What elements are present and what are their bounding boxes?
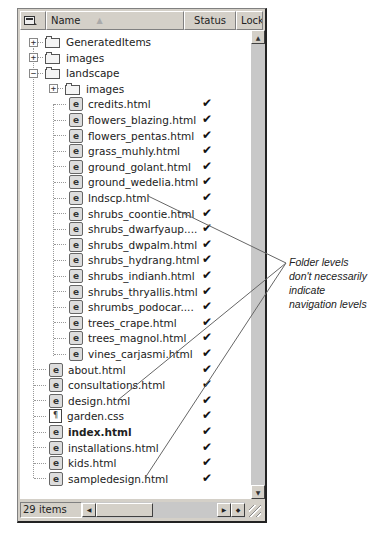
site-view-icon[interactable] — [20, 11, 46, 30]
column-locked[interactable]: Locke — [236, 11, 263, 30]
tree-connector — [54, 244, 66, 245]
status-bar: 29 items ◀ ▶ ◆ — [20, 500, 263, 519]
file-name: shrubs_thryallis.html — [88, 286, 198, 298]
tree-connector — [34, 400, 46, 401]
checked-out-check-icon: ✔ — [202, 315, 212, 329]
tree-connector — [54, 120, 66, 121]
column-name-label: Name — [51, 15, 81, 26]
html-file-icon: e — [69, 191, 83, 205]
tree-connector — [54, 229, 66, 230]
tree-connector — [34, 432, 46, 433]
checked-out-check-icon: ✔ — [202, 268, 212, 282]
html-file-icon: e — [49, 394, 63, 408]
checked-out-check-icon: ✔ — [202, 128, 212, 142]
tree-connector — [54, 291, 66, 292]
expand-panel-button[interactable]: ◆ — [231, 503, 245, 517]
expand-icon[interactable]: + — [29, 38, 38, 47]
checked-out-check-icon: ✔ — [202, 190, 212, 204]
expand-collapse-icon: ◆ — [236, 506, 241, 513]
sort-ascending-icon: ▲ — [97, 16, 103, 25]
html-file-icon: e — [69, 97, 83, 111]
folder-icon — [45, 52, 61, 64]
file-name: shrubs_indianh.html — [88, 270, 195, 282]
expand-icon[interactable]: + — [29, 53, 38, 62]
tree-connector — [54, 322, 66, 323]
tree-connector — [34, 369, 46, 370]
html-file-icon: e — [49, 363, 63, 377]
file-name: landscape — [66, 67, 119, 79]
html-file-icon: e — [69, 253, 83, 267]
scroll-up-button[interactable]: ▲ — [251, 30, 265, 44]
scroll-right-button[interactable]: ▶ — [217, 503, 231, 517]
column-name[interactable]: Name ▲ — [46, 11, 184, 30]
expand-icon[interactable]: + — [49, 84, 58, 93]
tree-connector — [54, 151, 66, 152]
horizontal-scroll-thumb[interactable] — [96, 503, 153, 517]
vertical-scrollbar[interactable]: ▲ ▼ — [251, 30, 265, 499]
item-count: 29 items — [20, 502, 82, 518]
tree-connector — [34, 463, 46, 464]
file-name: vines_carjasmi.html — [88, 348, 193, 360]
tree-connector — [54, 182, 66, 183]
html-file-icon: e — [69, 207, 83, 221]
checked-out-check-icon: ✔ — [202, 408, 212, 422]
checked-out-check-icon: ✔ — [202, 424, 212, 438]
tree-connector — [38, 73, 43, 74]
horizontal-scrollbar[interactable]: ◀ ▶ ◆ — [82, 502, 245, 518]
tree-connector — [34, 416, 46, 417]
file-tree: +GeneratedItems+images−landscape+imagese… — [20, 30, 251, 499]
folder-icon — [45, 67, 61, 79]
html-file-icon: e — [49, 456, 63, 470]
html-file-icon: e — [69, 285, 83, 299]
file-name: ground_wedelia.html — [88, 176, 198, 188]
html-file-icon: e — [49, 472, 63, 486]
html-file-icon: e — [69, 300, 83, 314]
column-status[interactable]: Status — [184, 11, 236, 30]
file-name: kids.html — [68, 457, 116, 469]
tree-connector — [54, 104, 66, 105]
tree-connector — [38, 42, 43, 43]
checked-out-check-icon: ✔ — [202, 237, 212, 251]
html-file-icon: e — [69, 144, 83, 158]
resize-grip[interactable] — [249, 505, 261, 517]
checked-out-check-icon: ✔ — [202, 471, 212, 485]
checked-out-check-icon: ✔ — [202, 221, 212, 235]
tree-connector — [54, 307, 66, 308]
file-name: images — [66, 52, 104, 64]
collapse-icon[interactable]: − — [29, 69, 38, 78]
tree-connector — [54, 260, 66, 261]
checked-out-check-icon: ✔ — [202, 284, 212, 298]
html-file-icon: e — [69, 175, 83, 189]
column-locked-label: Locke — [241, 15, 263, 26]
scroll-down-button[interactable]: ▼ — [251, 485, 265, 499]
checked-out-check-icon: ✔ — [202, 159, 212, 173]
file-name: credits.html — [88, 98, 151, 110]
file-name: lndscp.html — [88, 192, 149, 204]
html-file-icon: e — [49, 441, 63, 455]
file-name: installations.html — [68, 442, 159, 454]
file-name: shrubs_hydrang.html — [88, 254, 199, 266]
html-file-icon: e — [69, 316, 83, 330]
checked-out-check-icon: ✔ — [202, 96, 212, 110]
scroll-left-button[interactable]: ◀ — [82, 503, 96, 517]
tree-connector — [54, 276, 66, 277]
html-file-icon: e — [49, 425, 63, 439]
folder-icon — [65, 83, 81, 95]
checked-out-check-icon: ✔ — [202, 299, 212, 313]
file-name: sampledesign.html — [68, 473, 168, 485]
file-row[interactable]: esampledesign.html — [29, 470, 168, 488]
file-name: ground_golant.html — [88, 161, 191, 173]
checked-out-check-icon: ✔ — [202, 206, 212, 220]
file-name: GeneratedItems — [66, 36, 151, 48]
arrow-left-icon: ◀ — [87, 506, 92, 513]
column-header: Name ▲ Status Locke — [20, 11, 263, 30]
file-name: shrubs_dwarfyaup.... — [88, 223, 197, 235]
html-file-icon: e — [69, 222, 83, 236]
file-name: consultations.html — [68, 379, 165, 391]
folder-icon — [45, 36, 61, 48]
file-name: grass_muhly.html — [88, 145, 180, 157]
tree-connector — [38, 57, 43, 58]
column-status-label: Status — [194, 15, 226, 26]
css-file-icon: ¶ — [49, 409, 62, 423]
html-file-icon: e — [49, 378, 63, 392]
